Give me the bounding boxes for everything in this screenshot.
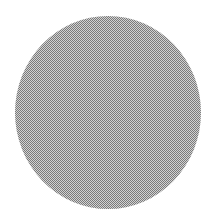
canvas <box>0 0 216 224</box>
gray-dithered-circle <box>15 16 201 209</box>
